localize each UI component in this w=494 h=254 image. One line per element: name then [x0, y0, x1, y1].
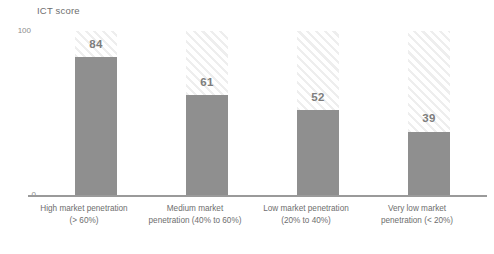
bar-group-2[interactable]: 61 — [186, 31, 228, 196]
bar-group-3[interactable]: 52 — [297, 31, 339, 196]
bar-solid-4[interactable] — [408, 132, 450, 196]
y-axis-tick-100: 100 — [5, 26, 31, 35]
x-axis-line — [28, 195, 487, 197]
chart-axis-title: ICT score — [37, 5, 80, 16]
bar-group-4[interactable]: 39 — [408, 31, 450, 196]
bar-solid-2[interactable] — [186, 95, 228, 196]
x-axis-category-label-4: Very low market penetration (< 20%) — [352, 203, 482, 226]
plot-area: 84 61 52 39 — [32, 31, 484, 196]
bar-group-1[interactable]: 84 — [75, 31, 117, 196]
ict-score-bar-chart: ICT score 100 0 84 61 52 39 High ma — [0, 0, 494, 254]
bar-value-label-2: 61 — [186, 76, 228, 88]
bar-value-label-3: 52 — [297, 91, 339, 103]
bar-solid-3[interactable] — [297, 110, 339, 196]
bar-value-label-4: 39 — [408, 112, 450, 124]
bar-value-label-1: 84 — [75, 38, 117, 50]
bar-solid-1[interactable] — [75, 57, 117, 196]
